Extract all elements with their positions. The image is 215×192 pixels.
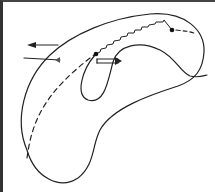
zigzag-path [96, 20, 172, 54]
arrow-left-icon [27, 42, 36, 48]
inner-loop-curve [81, 45, 207, 101]
double-arrow-head-icon [115, 57, 122, 65]
dashed-tail [176, 30, 196, 34]
arrow-right-head-icon [55, 57, 60, 63]
point-a [94, 52, 99, 57]
diagram-canvas [0, 0, 215, 192]
arrow-right-shaft [24, 58, 60, 60]
point-b [170, 28, 175, 33]
